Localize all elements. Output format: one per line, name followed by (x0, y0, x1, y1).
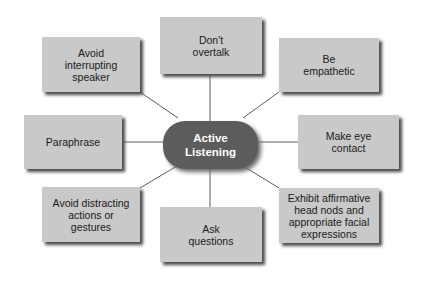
node-avoid-distracting: Avoid distracting actions or gestures (42, 187, 140, 242)
node-label: Avoid interrupting speaker (65, 47, 118, 83)
node-exhibit-affirmative: Exhibit affirmative head nods and approp… (279, 188, 379, 243)
node-label: Avoid distracting actions or gestures (53, 197, 130, 233)
node-make-eye-contact: Make eye contact (298, 115, 399, 169)
node-label: Paraphrase (46, 136, 100, 148)
node-paraphrase: Paraphrase (24, 115, 122, 169)
connector-avoid-interrupting (140, 92, 178, 118)
connector-be-empathetic (243, 92, 279, 118)
node-label: Make eye contact (326, 130, 372, 154)
active-listening-diagram: Avoid interrupting speaker Don't overtal… (0, 0, 425, 281)
node-dont-overtalk: Don't overtalk (160, 17, 262, 74)
node-ask-questions: Ask questions (160, 207, 262, 262)
node-label: Don't overtalk (193, 34, 230, 58)
node-avoid-interrupting: Avoid interrupting speaker (42, 37, 140, 92)
node-label: Ask questions (189, 223, 234, 247)
center-node-active-listening: Active Listening (163, 121, 258, 169)
node-be-empathetic: Be empathetic (279, 38, 379, 92)
node-label: Be empathetic (303, 53, 354, 77)
node-label: Exhibit affirmative head nods and approp… (288, 192, 371, 240)
center-label: Active Listening (185, 131, 236, 159)
